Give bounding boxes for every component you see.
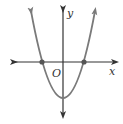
origin-label: O [52, 67, 61, 80]
x-intercept-right-point [81, 59, 86, 64]
parabola-diagram: y x O [0, 0, 123, 124]
x-axis-label: x [109, 65, 116, 78]
x-intercept-left-point [39, 59, 44, 64]
y-axis-label: y [66, 7, 74, 20]
